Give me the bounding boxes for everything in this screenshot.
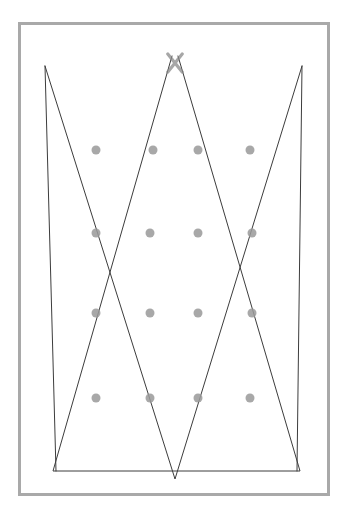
figure-canvas: Geometric Zigzag Line Figure bbox=[0, 0, 346, 524]
grid-dot bbox=[248, 309, 257, 318]
grid-dot bbox=[146, 229, 155, 238]
grid-dot bbox=[246, 394, 255, 403]
line-figure-svg bbox=[0, 0, 346, 524]
grid-dot bbox=[246, 146, 255, 155]
grid-dot bbox=[92, 146, 101, 155]
grid-dot bbox=[92, 394, 101, 403]
grid-dot bbox=[149, 146, 158, 155]
grid-dot bbox=[92, 229, 101, 238]
grid-dot bbox=[92, 309, 101, 318]
grid-dot bbox=[194, 394, 203, 403]
grid-dot bbox=[194, 146, 203, 155]
outer-border-frame bbox=[20, 24, 329, 495]
grid-dot bbox=[194, 309, 203, 318]
grid-dot bbox=[194, 229, 203, 238]
grid-dot bbox=[146, 394, 155, 403]
grid-dot bbox=[248, 229, 257, 238]
grid-dot bbox=[146, 309, 155, 318]
